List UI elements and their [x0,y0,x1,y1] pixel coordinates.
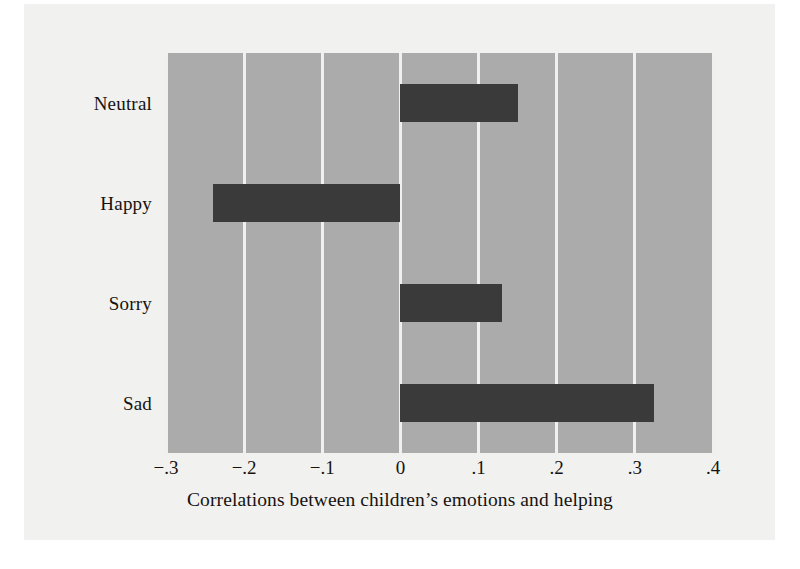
gridline [243,53,246,453]
bar-sad [400,384,654,422]
x-axis-tick-label: .1 [449,458,509,477]
gridline [712,53,715,453]
gridline [165,53,168,453]
x-axis-tick-labels: −.3−.2−.10.1.2.3.4 [166,458,713,486]
y-axis-label-sad: Sad [2,394,152,413]
x-axis-tick-label: .2 [527,458,587,477]
chart-figure: NeutralHappySorrySad −.3−.2−.10.1.2.3.4 … [0,0,800,569]
x-axis-tick-label: 0 [370,458,430,477]
x-axis-tick-label: −.1 [292,458,352,477]
bar-neutral [400,84,517,122]
x-axis-tick-label: .4 [683,458,743,477]
y-axis-category-labels: NeutralHappySorrySad [0,53,152,453]
x-axis-tick-label: −.3 [136,458,196,477]
x-axis-tick-label: .3 [605,458,665,477]
y-axis-label-happy: Happy [2,194,152,213]
gridline [321,53,324,453]
y-axis-label-neutral: Neutral [2,94,152,113]
bar-happy [213,184,401,222]
y-axis-label-sorry: Sorry [2,294,152,313]
plot-area [166,53,713,453]
x-axis-title: Correlations between children’s emotions… [0,489,800,511]
bar-sorry [400,284,502,322]
x-axis-tick-label: −.2 [214,458,274,477]
